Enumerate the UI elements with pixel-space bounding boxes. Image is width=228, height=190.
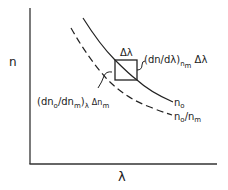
curve-label-n-o: no <box>174 98 185 110</box>
y-axis-label: n <box>9 56 17 68</box>
refractive-index-diagram: n λ Δλ (dn/dλ)nm Δλ (dno/dnm)λΔnm no no/… <box>0 0 228 190</box>
delta-lambda-label: Δλ <box>120 48 133 58</box>
slope-annotation: (dn/dλ)nm Δλ <box>144 55 207 70</box>
derivative-annotation: (dno/dnm)λΔnm <box>37 97 109 110</box>
derivative-bracket <box>98 72 112 88</box>
diagram-graphics <box>0 0 228 190</box>
slope-subscript: nm <box>180 60 191 68</box>
slope-prefix: (dn/dλ) <box>144 54 180 65</box>
x-axis-label: λ <box>118 170 126 183</box>
slope-suffix: Δλ <box>191 54 207 65</box>
curve-label-n-o-over-n-m: no/nm <box>174 112 201 124</box>
